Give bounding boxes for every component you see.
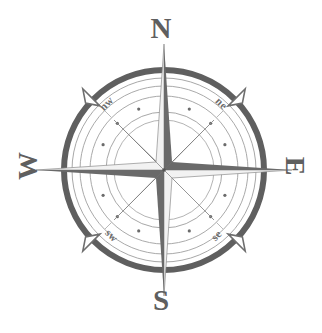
star-point-e-dark — [164, 162, 292, 170]
cardinal-label-west: W — [14, 152, 42, 180]
star-point-e-light — [164, 170, 292, 178]
star-point-n-dark — [164, 44, 172, 170]
compass-rose-figure: nw ne sw se N S E W — [0, 0, 322, 333]
star-point-n-light — [156, 44, 164, 170]
star-point-w-dark — [36, 170, 164, 178]
star-point-w-light — [36, 162, 164, 170]
ordinal-label-ne: ne — [213, 95, 230, 112]
center-hub — [162, 168, 166, 172]
cardinal-label-south: S — [0, 286, 322, 315]
ordinal-label-se: se — [208, 227, 224, 243]
cardinal-label-east: E — [281, 157, 309, 176]
star-point-s-light — [164, 170, 172, 296]
star-point-s-dark — [156, 170, 164, 296]
cardinal-label-north: N — [0, 14, 322, 43]
